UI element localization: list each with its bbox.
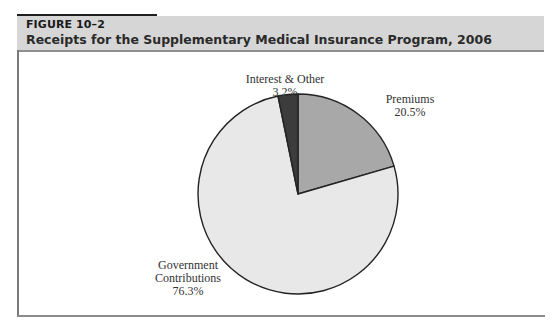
label-government: Government Contributions 76.3%	[143, 259, 233, 298]
pie-chart	[0, 0, 559, 329]
label-interest-value: 3.2%	[235, 86, 335, 99]
label-premiums: Premiums 20.5%	[370, 93, 450, 119]
label-interest-other: Interest & Other 3.2%	[235, 73, 335, 99]
label-government-value: 76.3%	[143, 285, 233, 298]
label-premiums-value: 20.5%	[370, 106, 450, 119]
